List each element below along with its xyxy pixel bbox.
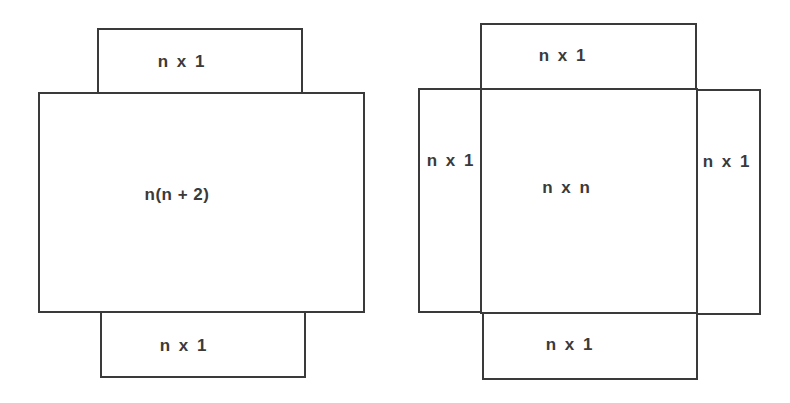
right-bottom-strip-label: n x 1 xyxy=(546,335,595,355)
right-top-strip xyxy=(480,23,697,90)
right-center-square xyxy=(480,88,698,314)
right-center-square-label: n x n xyxy=(542,178,592,198)
right-top-strip-label: n x 1 xyxy=(539,46,588,66)
right-left-strip xyxy=(418,88,482,313)
right-figure: n x 1 n x 1 n x n n x 1 n x 1 xyxy=(0,0,790,403)
right-right-strip xyxy=(696,89,761,315)
right-right-strip-label: n x 1 xyxy=(703,152,752,172)
right-left-strip-label: n x 1 xyxy=(427,151,476,171)
